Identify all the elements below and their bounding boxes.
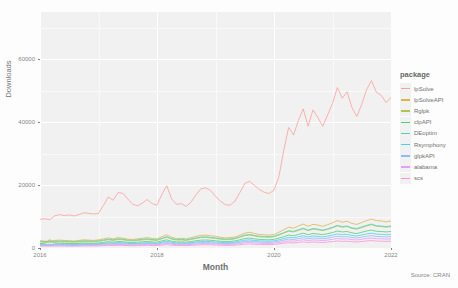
legend-item-label: glpkAPI [414,153,435,159]
legend-line-icon [401,122,410,123]
series-lines [40,12,391,248]
chart-figure: Downloads 0200004000060000 2016201820202… [0,0,458,288]
legend-title: package [400,70,458,79]
legend-item[interactable]: lpSolveAPI [400,94,458,105]
legend-item-label: Rsymphony [414,142,446,148]
legend-color-swatch [400,173,411,184]
legend-color-swatch [400,83,411,94]
legend-line-icon [401,155,410,156]
y-axis-tick-label: 0 [1,245,35,251]
legend-line-icon [401,133,410,134]
legend-item[interactable]: lpSolve [400,83,458,94]
x-axis-tick-mark [157,248,158,250]
legend: package lpSolvelpSolveAPIRglpkclpAPIDEop… [400,70,458,184]
x-axis-tick-label: 2020 [254,252,294,258]
legend-line-icon [401,99,410,100]
legend-line-icon [401,144,410,145]
legend-item-label: lpSolve [414,86,434,92]
legend-color-swatch [400,105,411,116]
y-axis-tick-label: 20000 [1,182,35,188]
x-axis-tick-label: 2018 [137,252,177,258]
source-caption: Source: CRAN [411,272,450,278]
legend-item-label: scs [414,175,423,181]
legend-item[interactable]: clpAPI [400,117,458,128]
legend-item[interactable]: Rglpk [400,105,458,116]
legend-line-icon [401,166,410,167]
legend-item[interactable]: DEoptim [400,128,458,139]
legend-color-swatch [400,139,411,150]
legend-color-swatch [400,150,411,161]
legend-color-swatch [400,128,411,139]
legend-item-label: DEoptim [414,130,437,136]
y-axis-tick-label: 40000 [1,119,35,125]
legend-item[interactable]: glpkAPI [400,150,458,161]
y-axis-tick-label: 60000 [1,56,35,62]
series-line [40,26,391,220]
legend-color-swatch [400,117,411,128]
legend-line-icon [401,110,410,111]
legend-items: lpSolvelpSolveAPIRglpkclpAPIDEoptimRsymp… [400,83,458,184]
y-axis-label: Downloads [4,34,13,124]
x-axis-tick-label: 2016 [20,252,60,258]
x-axis-tick-mark [274,248,275,250]
legend-item-label: lpSolveAPI [414,97,443,103]
legend-item-label: Rglpk [414,108,429,114]
legend-color-swatch [400,161,411,172]
legend-item-label: clpAPI [414,119,431,125]
legend-item[interactable]: Rsymphony [400,139,458,150]
legend-item[interactable]: scs [400,173,458,184]
legend-item-label: alabama [414,164,437,170]
legend-line-icon [401,88,410,89]
legend-color-swatch [400,94,411,105]
x-axis-label: Month [38,262,393,272]
x-axis-tick-label: 2022 [371,252,411,258]
plot-panel [40,12,391,248]
x-axis-tick-mark [391,248,392,250]
legend-line-icon [401,178,410,179]
legend-item[interactable]: alabama [400,161,458,172]
x-axis-tick-mark [40,248,41,250]
